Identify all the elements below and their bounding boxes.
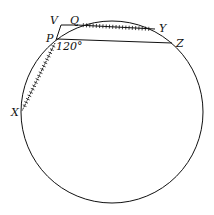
diagram-canvas: V Q Y P Z X 120° xyxy=(0,0,214,215)
label-y: Y xyxy=(159,22,168,35)
label-p: P xyxy=(45,32,54,45)
label-q: Q xyxy=(70,14,79,27)
chord-qy-hatch-marks xyxy=(83,23,149,31)
angle-label-120: 120° xyxy=(56,40,83,53)
circle-geometry-diagram: V Q Y P Z X 120° xyxy=(0,0,214,215)
chord-px-hatch-marks xyxy=(23,45,55,106)
label-z: Z xyxy=(175,37,184,50)
label-v: V xyxy=(50,14,59,27)
label-x: X xyxy=(10,106,20,119)
